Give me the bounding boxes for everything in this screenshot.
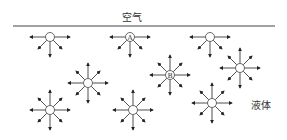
force-arrow-icon [228,71,237,80]
force-arrow-icon [38,98,47,107]
force-arrow-icon [38,40,47,49]
force-arrow-icon [91,86,100,95]
force-arrow-icon [121,98,130,107]
force-arrow-icon [53,98,62,107]
force-arrow-icon [243,56,252,65]
force-arrow-icon [215,106,224,115]
molecule [220,48,260,88]
force-arrow-icon [158,78,167,87]
molecule-circle [46,33,55,42]
molecule-circle [129,106,138,115]
force-arrow-icon [200,91,209,100]
force-arrow-icon [76,86,85,95]
force-arrow-icon [173,63,182,72]
molecule [192,83,232,123]
force-arrow-icon [200,106,209,115]
force-arrow-icon [76,71,85,80]
molecule-label: A [126,34,133,42]
force-arrow-icon [228,56,237,65]
force-arrow-icon [158,63,167,72]
molecule-circle [236,64,245,73]
molecule [30,33,70,58]
force-arrow-icon [53,113,62,122]
molecule-circle [206,33,215,42]
molecule-circle [84,79,93,88]
force-arrow-icon [121,113,130,122]
force-arrow-icon [133,40,142,49]
molecule: B [150,55,190,95]
molecule-label: B [167,72,172,80]
molecule-circle [208,99,217,108]
force-arrow-icon [91,71,100,80]
force-arrow-icon [173,78,182,87]
force-arrow-icon [198,40,207,49]
molecule [30,90,70,130]
force-arrow-icon [118,40,127,49]
molecule [68,63,108,103]
force-arrow-icon [243,71,252,80]
diagram: 空气 液体 AB [0,0,287,140]
force-arrow-icon [136,113,145,122]
force-arrow-icon [215,91,224,100]
force-arrow-icon [136,98,145,107]
molecule [113,90,153,130]
force-arrow-icon [38,113,47,122]
molecule: A [110,33,150,58]
force-arrow-icon [53,40,62,49]
force-arrow-icon [213,40,222,49]
molecule [190,33,230,58]
molecule-force-diagram: AB [0,0,287,140]
molecule-circle [46,106,55,115]
